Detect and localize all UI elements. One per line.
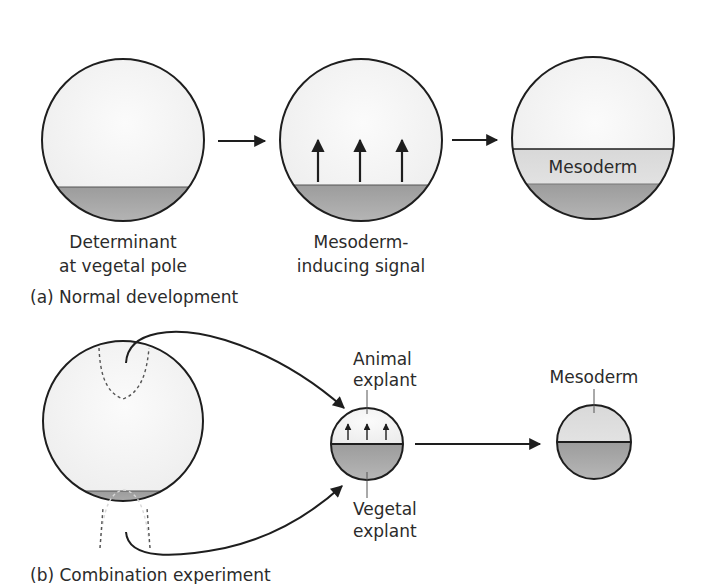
source-embryo xyxy=(40,338,210,548)
embryo-stage-1 xyxy=(40,55,210,227)
mesoderm-half xyxy=(555,403,635,442)
stage-1-label-line1: Determinant xyxy=(69,232,177,252)
panel-b-combination-experiment: Animal explant Vegetal explant Mesoderm … xyxy=(30,332,638,584)
stage-2-label-line1: Mesoderm- xyxy=(313,232,408,252)
result-mesoderm-label: Mesoderm xyxy=(550,367,639,387)
animal-hemisphere xyxy=(40,338,210,508)
mesoderm-inner-label: Mesoderm xyxy=(549,157,638,177)
panel-a-caption: (a) Normal development xyxy=(30,287,238,307)
panel-b-caption: (b) Combination experiment xyxy=(30,565,271,584)
animal-explant-label-line1: Animal xyxy=(353,349,412,369)
vegetal-explant-label-line1: Vegetal xyxy=(353,499,417,519)
combined-explant xyxy=(328,390,408,498)
embryo-induction-diagram: Determinant at vegetal pole Mesoderm- in… xyxy=(0,0,704,584)
vegetal-explant-half xyxy=(328,444,408,482)
result-explant xyxy=(555,389,635,481)
stage-2-label-line2: inducing signal xyxy=(297,256,425,276)
embryo-stage-3: Mesoderm xyxy=(510,55,680,225)
animal-explant-half xyxy=(328,406,408,444)
embryo-stage-2 xyxy=(278,55,448,225)
vegetal-region xyxy=(278,185,448,225)
panel-a-normal-development: Determinant at vegetal pole Mesoderm- in… xyxy=(30,55,680,307)
vegetal-explant-label-line2: explant xyxy=(353,521,417,541)
animal-explant-label-line2: explant xyxy=(353,370,417,390)
vegetal-half xyxy=(555,442,635,481)
vegetal-transfer-arrow-icon xyxy=(126,486,342,555)
stage-1-label-line2: at vegetal pole xyxy=(59,256,187,276)
